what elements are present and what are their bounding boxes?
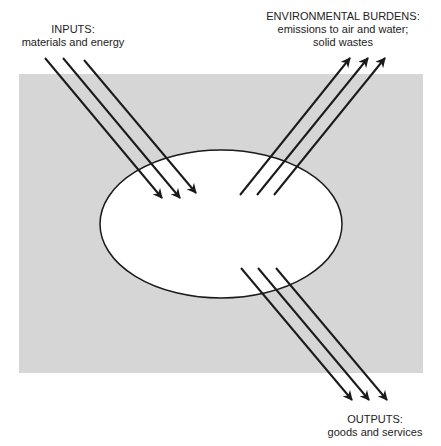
burdens-title: ENVIRONMENTAL BURDENS: — [248, 10, 438, 23]
inputs-description: materials and energy — [13, 36, 133, 49]
burdens-description-line-2: solid wastes — [248, 36, 438, 49]
life-cycle-diagram — [0, 0, 441, 446]
outputs-label: OUTPUTS: goods and services — [310, 413, 440, 439]
burdens-description-line-1: emissions to air and water; — [248, 23, 438, 36]
process-ellipse — [100, 150, 342, 298]
outputs-description: goods and services — [310, 426, 440, 439]
inputs-label: INPUTS: materials and energy — [13, 23, 133, 49]
inputs-title: INPUTS: — [13, 23, 133, 36]
outputs-title: OUTPUTS: — [310, 413, 440, 426]
environmental-burdens-label: ENVIRONMENTAL BURDENS: emissions to air … — [248, 10, 438, 49]
